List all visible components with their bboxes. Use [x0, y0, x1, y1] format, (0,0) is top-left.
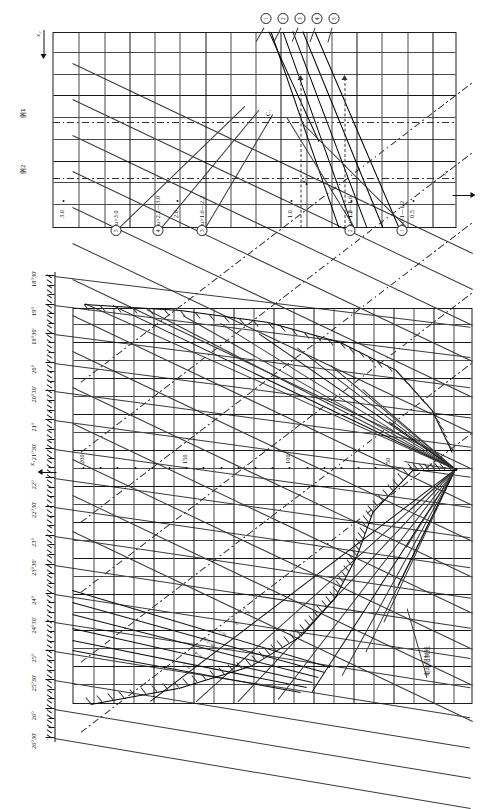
x-scale-label: 3.0 [58, 210, 64, 218]
grid-line-horizontal [381, 33, 382, 227]
z2-scale-dot [271, 467, 273, 469]
grid-line-horizontal [179, 33, 180, 227]
z2-scale-dot [306, 467, 308, 469]
construction-point-label: C₂ [300, 176, 306, 182]
example2-path-vertical [52, 178, 456, 179]
x2-axis-label: x₂ [34, 31, 41, 37]
angle-label: 24°30' [30, 617, 36, 634]
z2-scale-dot [374, 467, 376, 469]
angle-label: 19°30' [30, 328, 36, 345]
example-label: 例2 [20, 164, 26, 174]
z2-axis-arrowhead [37, 470, 42, 476]
example1-arrowhead [297, 75, 303, 80]
angle-label: 22° [30, 480, 36, 489]
example1-path-vertical [52, 122, 456, 123]
grid-line-horizontal [129, 33, 130, 227]
x-scale-dot [62, 200, 64, 202]
grid-line-horizontal [453, 309, 454, 703]
grid-line-horizontal [407, 33, 408, 227]
z2-scale-label: 150 [181, 454, 187, 464]
x1-axis-label: x₁ [440, 170, 447, 176]
z2-scale-label: 100 [284, 454, 290, 464]
z1-scale-label: 0.5 [408, 210, 414, 218]
angle-label: 19° [30, 307, 36, 316]
envelope-segment [412, 470, 455, 471]
example-label: 例1 [20, 108, 26, 118]
grid-line-vertical [53, 161, 455, 162]
grid-line-horizontal [205, 33, 206, 227]
curve-marker-3: 3 [294, 14, 305, 25]
angle-label: 18°30' [30, 270, 36, 287]
grid-line-horizontal [432, 33, 433, 227]
z2-scale-dot [288, 467, 290, 469]
construction-point-dot [305, 183, 307, 185]
angle-ray [54, 709, 470, 779]
z2-scale-dot [82, 467, 84, 469]
grid-line-horizontal [113, 309, 114, 703]
angle-label: 25°30' [30, 675, 36, 692]
secondary-chart-panel: x₂ 3.02.01.0 1.00.5 x₁ 例1例2 C₁C₂ 1u=1—1.… [0, 0, 495, 242]
grid-line-horizontal [255, 33, 256, 227]
grid-line-vertical [53, 74, 455, 75]
grid-line-horizontal [153, 309, 154, 703]
curve-marker-2: 2 [277, 14, 288, 25]
legend-text: u>3.0 [112, 210, 118, 225]
x-scale-dot [176, 200, 178, 202]
construction-point-label: C₁ [264, 110, 270, 116]
angle-label: 25° [30, 653, 36, 662]
grid-line-horizontal [78, 33, 79, 227]
x2-axis-stem [43, 30, 44, 56]
z2-scale-dot [357, 467, 359, 469]
z2-scale-dot [340, 467, 342, 469]
z2-scale-dot [254, 467, 256, 469]
z2-scale-dot [116, 467, 118, 469]
example2-arrowhead [341, 75, 347, 80]
angle-ray [54, 738, 470, 809]
z2-axis-label: z₂ [28, 460, 35, 466]
angle-label: 23° [30, 538, 36, 547]
z2-scale-dot [99, 467, 101, 469]
example1-path-horizontal [300, 78, 301, 228]
z2-scale-dot [220, 467, 222, 469]
angle-label: 26°30' [30, 732, 36, 749]
grid-line-horizontal [233, 309, 234, 703]
curve-marker-4: 4 [311, 14, 322, 25]
grid-line-horizontal [104, 33, 105, 227]
axis-hatching [46, 274, 55, 740]
angle-label: 21°30' [30, 444, 36, 461]
curve-marker-5: 5 [328, 14, 339, 25]
z2-scale-dot [134, 467, 136, 469]
x-scale-label: 1.0 [286, 210, 292, 218]
grid-line-horizontal [133, 309, 134, 703]
z1-scale-dot [412, 200, 414, 202]
angle-label: 20°30' [30, 386, 36, 403]
grid-line-vertical [53, 95, 455, 96]
secondary-grid [52, 32, 456, 228]
angle-label: 23°30' [30, 559, 36, 576]
curve-marker-1: 1 [260, 14, 271, 25]
x1-axis-arrowhead [470, 193, 475, 199]
grid-line-horizontal [230, 33, 231, 227]
main-chart-panel: 26°30'26°25°30'25°24°30'24°23°30'23°22°3… [0, 242, 495, 762]
grid-line-vertical [53, 52, 455, 53]
x2-axis-arrowhead [40, 54, 46, 59]
grid-line-vertical [53, 183, 455, 184]
grid-line-vertical [53, 139, 455, 140]
angle-label: 26° [30, 711, 36, 720]
grid-line-vertical [53, 205, 455, 206]
angle-label: 21° [30, 422, 36, 431]
grid-line-vertical [53, 117, 455, 118]
z2-scale-dot [185, 467, 187, 469]
angle-label: 24° [30, 596, 36, 605]
legend-text: u>1.6—2.2 [198, 196, 204, 225]
z2-scale-dot [202, 467, 204, 469]
legend-text: u>2.2—3.0 [154, 196, 160, 225]
angle-label: 20° [30, 365, 36, 374]
grid-line-horizontal [313, 309, 314, 703]
x-scale-dot [290, 200, 292, 202]
angle-label: 22°30' [30, 501, 36, 518]
grid-line-horizontal [353, 309, 354, 703]
z2-scale-dot [323, 467, 325, 469]
